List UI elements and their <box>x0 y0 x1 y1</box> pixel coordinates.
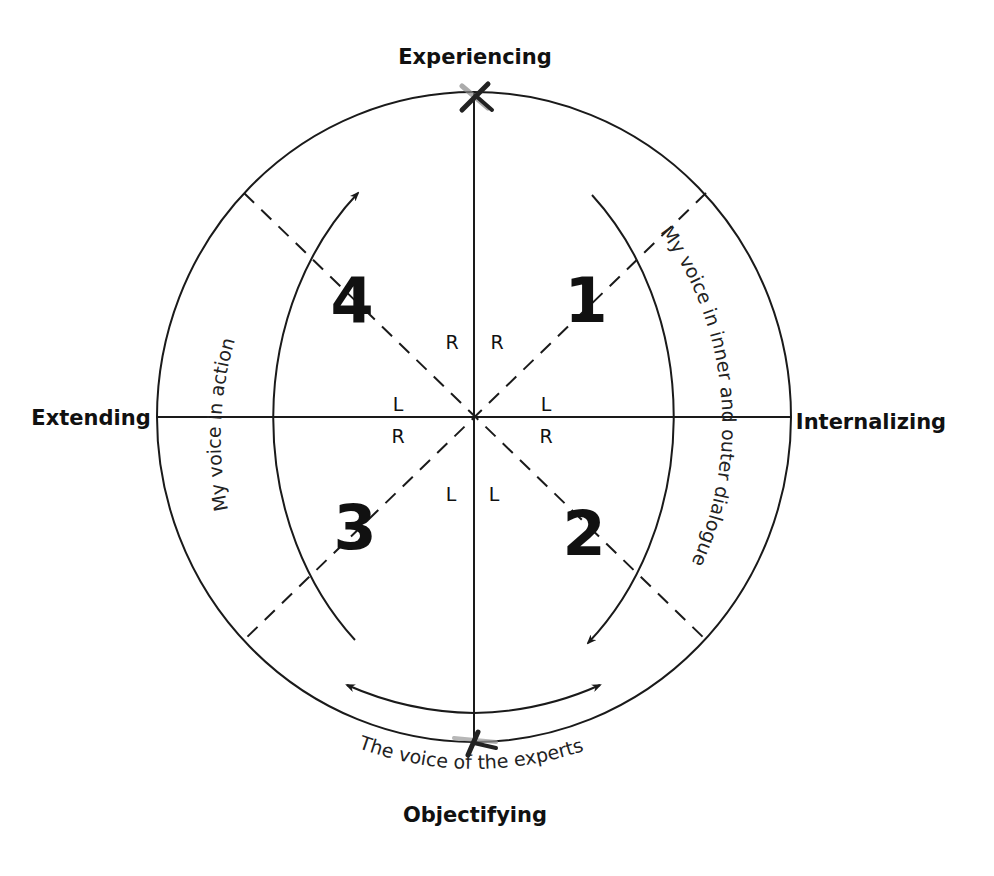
mark-lower-right-l: L <box>489 483 500 505</box>
arc-label-left: My voice in action <box>203 335 239 513</box>
quadrant-number-4: 4 <box>330 264 373 337</box>
axis-label-top: Experiencing <box>398 45 552 69</box>
arc-label-left-text: My voice in action <box>203 335 239 513</box>
axis-label-bottom: Objectifying <box>403 803 547 827</box>
bottom-arc-right <box>474 685 600 713</box>
bottom-arc-left <box>347 685 474 713</box>
mark-left-r: R <box>391 425 404 447</box>
quadrant-number-1: 1 <box>564 264 607 337</box>
quadrant-number-2: 2 <box>562 497 605 570</box>
quadrant-number-3: 3 <box>333 491 376 564</box>
mark-lower-left-l: L <box>446 483 457 505</box>
axis-label-left: Extending <box>31 406 150 430</box>
arc-label-right-text: My voice in inner and outer dialogue <box>657 221 741 570</box>
arc-label-bottom-text: The voice of the experts <box>356 731 586 773</box>
axis-label-right: Internalizing <box>796 410 946 434</box>
right-arrow-arc <box>588 195 674 643</box>
mark-upper-left-r: R <box>445 331 458 353</box>
mark-right-r: R <box>539 425 552 447</box>
mark-left-l: L <box>393 393 404 415</box>
mark-right-l: L <box>541 393 552 415</box>
mark-upper-right-r: R <box>490 331 503 353</box>
arc-label-right: My voice in inner and outer dialogue <box>657 221 741 570</box>
four-quadrant-voice-diagram: Experiencing Objectifying Extending Inte… <box>0 0 994 876</box>
top-x-mark <box>462 84 492 110</box>
arc-label-bottom: The voice of the experts <box>356 731 586 773</box>
